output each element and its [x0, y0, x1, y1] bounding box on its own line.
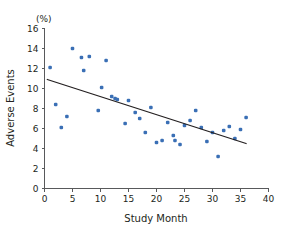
data-point [173, 139, 177, 143]
data-point [127, 99, 131, 103]
data-point [205, 140, 209, 144]
x-tick-label: 0 [42, 194, 48, 204]
y-axis-unit-label: (%) [36, 14, 52, 24]
data-point [82, 69, 86, 73]
data-point [166, 121, 170, 125]
scatter-plot: 0246810121416 0510152025303540 (%) Study… [0, 0, 289, 234]
data-point [228, 125, 232, 129]
data-point [144, 131, 148, 135]
data-point [138, 117, 142, 121]
data-point [216, 155, 220, 159]
data-point [65, 115, 69, 119]
data-points [48, 47, 248, 159]
data-point [116, 98, 120, 102]
y-tick-label: 0 [33, 184, 39, 194]
y-tick-label: 10 [27, 84, 39, 94]
x-tick-label: 15 [123, 194, 134, 204]
data-point [188, 119, 192, 123]
data-point [123, 122, 127, 126]
x-tick-label: 5 [70, 194, 76, 204]
y-tick-label: 6 [33, 124, 39, 134]
data-point [110, 95, 114, 99]
data-point [244, 116, 248, 120]
y-tick-label: 12 [27, 64, 38, 74]
data-point [54, 103, 58, 107]
y-tick-label: 16 [27, 24, 39, 34]
data-point [96, 109, 100, 113]
data-point [80, 56, 84, 60]
data-point [155, 141, 159, 145]
data-point [133, 111, 137, 115]
x-tick-label: 40 [263, 194, 275, 204]
data-point [149, 106, 153, 110]
data-point [71, 47, 75, 51]
y-axis-ticks: 0246810121416 [27, 24, 44, 194]
x-tick-label: 25 [179, 194, 190, 204]
x-tick-label: 35 [235, 194, 246, 204]
x-tick-label: 30 [207, 194, 219, 204]
x-axis-title: Study Month [124, 213, 187, 224]
data-point [48, 66, 52, 70]
data-point [178, 143, 182, 147]
data-point [239, 128, 243, 132]
x-tick-label: 20 [151, 194, 163, 204]
y-tick-label: 2 [33, 164, 39, 174]
y-tick-label: 8 [33, 104, 39, 114]
x-tick-label: 10 [95, 194, 107, 204]
data-point [100, 86, 104, 90]
data-point [172, 134, 176, 138]
chart-container: 0246810121416 0510152025303540 (%) Study… [0, 0, 289, 234]
data-point [88, 55, 92, 59]
data-point [104, 59, 108, 63]
y-axis-title: Adverse Events [5, 69, 16, 147]
x-axis-ticks: 0510152025303540 [42, 189, 275, 204]
data-point [194, 109, 198, 113]
data-point [160, 139, 164, 143]
data-point [60, 126, 64, 130]
y-tick-label: 4 [33, 144, 39, 154]
data-point [222, 129, 226, 133]
y-tick-label: 14 [27, 44, 39, 54]
